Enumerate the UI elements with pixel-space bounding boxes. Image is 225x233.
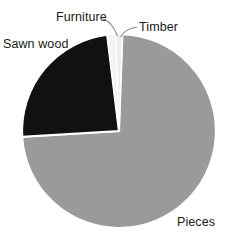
pie-chart-figure: Furniture Timber Sawn wood Pieces xyxy=(0,0,225,233)
pie-label-pieces: Pieces xyxy=(177,215,215,229)
pie-chart-canvas xyxy=(0,0,225,233)
pie-label-timber: Timber xyxy=(139,20,178,34)
pie-label-sawn-wood: Sawn wood xyxy=(3,37,69,51)
pie-label-furniture: Furniture xyxy=(56,10,107,24)
